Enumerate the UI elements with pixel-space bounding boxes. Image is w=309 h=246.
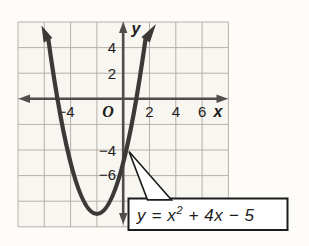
y-tick-neg6: −6	[99, 166, 116, 183]
equation-base: y = x	[136, 206, 176, 225]
parabola-graph-figure: 4 2 −4 −6 −4 2 4 6 O y x y = x2 + 4x − 5	[0, 0, 309, 246]
graph-canvas: 4 2 −4 −6 −4 2 4 6 O y x y = x2 + 4x − 5	[0, 0, 309, 246]
y-tick-4: 4	[108, 39, 116, 56]
equation-rest: + 4x − 5	[183, 206, 255, 225]
equation-exponent: 2	[175, 204, 183, 216]
x-axis-label: x	[213, 103, 224, 120]
x-tick-2: 2	[145, 103, 153, 120]
y-tick-neg4: −4	[99, 142, 116, 159]
x-tick-6: 6	[198, 103, 206, 120]
y-tick-2: 2	[108, 65, 116, 82]
origin-label: O	[102, 103, 114, 120]
x-tick-4: 4	[172, 103, 180, 120]
equation-label: y = x2 + 4x − 5	[136, 204, 255, 225]
y-axis-label: y	[131, 20, 142, 37]
